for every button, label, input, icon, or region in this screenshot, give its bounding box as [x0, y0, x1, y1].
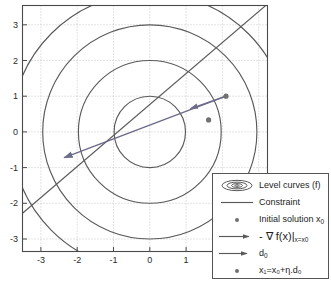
xtick-label-1: 1	[184, 256, 189, 265]
marker-initial-solution	[223, 94, 228, 99]
legend-entry-next-solution: x₁=x₀+η.d₀	[213, 262, 328, 279]
arrow-long-icon	[217, 229, 257, 244]
legend-box: Level curves (f) Constraint Initial solu…	[212, 173, 329, 279]
ytick-label-2: 2	[6, 56, 18, 65]
marker-next-solution	[206, 117, 211, 122]
xtick-label-neg2: -2	[73, 256, 81, 265]
dot-marker-icon	[217, 263, 257, 278]
xtick-label-neg3: -3	[37, 256, 45, 265]
legend-label-level-curves: Level curves (f)	[257, 181, 321, 190]
ytick-label-neg2: -2	[3, 199, 18, 208]
arrow-short-icon	[217, 246, 257, 261]
xtick-label-0: 0	[147, 256, 152, 265]
dot-marker-icon	[217, 212, 257, 227]
ytick-label-neg1: -1	[3, 163, 18, 172]
line-segment-icon	[217, 195, 257, 210]
xtick-label-neg1: -1	[109, 256, 117, 265]
legend-label-d0: d0	[257, 249, 268, 258]
legend-entry-d0: d0	[213, 245, 328, 262]
legend-entry-negative-gradient: - ∇ f(x)|x=x0	[213, 228, 328, 245]
legend-label-negative-gradient-sub: x=x0	[295, 236, 309, 243]
legend-entry-level-curves: Level curves (f)	[213, 177, 328, 194]
legend-label-initial-solution-sub: 0	[321, 218, 325, 225]
legend-label-initial-solution-main: Initial solution x	[259, 214, 321, 224]
legend-label-d0-sub: 0	[264, 252, 268, 259]
ytick-label-neg3: -3	[3, 235, 18, 244]
legend-label-initial-solution: Initial solution x0	[257, 215, 324, 224]
legend-label-negative-gradient: - ∇ f(x)|x=x0	[257, 231, 308, 242]
legend-label-constraint: Constraint	[257, 198, 300, 207]
ytick-label-3: 3	[6, 20, 18, 29]
legend-label-next-solution: x₁=x₀+η.d₀	[257, 266, 302, 275]
legend-label-negative-gradient-main: - ∇ f(x)|	[259, 230, 295, 242]
ytick-label-1: 1	[6, 92, 18, 101]
contour-rings-icon	[217, 178, 257, 193]
legend-entry-constraint: Constraint	[213, 194, 328, 211]
ytick-label-0: 0	[6, 127, 18, 136]
figure-container: 3 2 1 0 -1 -2 -3 -3 -2 -1 0 1 2 Level cu…	[0, 0, 331, 287]
legend-entry-initial-solution: Initial solution x0	[213, 211, 328, 228]
